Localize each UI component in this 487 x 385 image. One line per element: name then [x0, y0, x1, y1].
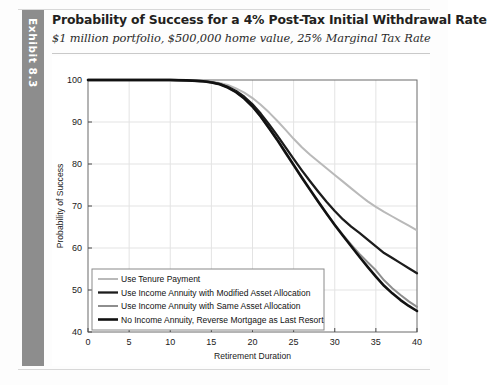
- exhibit-subtitle: $1 million portfolio, $500,000 home valu…: [52, 31, 431, 45]
- y-tick-label: 90: [72, 117, 82, 127]
- y-axis-title: Probability of Success: [55, 164, 65, 249]
- y-tick-label: 50: [72, 285, 82, 295]
- x-tick-label: 35: [371, 337, 381, 347]
- legend-label: Use Income Annuity with Same Asset Alloc…: [121, 301, 301, 311]
- x-tick-label: 15: [206, 337, 216, 347]
- exhibit-title: Probability of Success for a 4% Post-Tax…: [52, 12, 487, 27]
- x-tick-label: 40: [412, 337, 422, 347]
- legend-label: Use Tenure Payment: [121, 274, 201, 284]
- x-tick-label: 0: [85, 337, 90, 347]
- exhibit-number-tab: Exhibit 8.3: [22, 10, 44, 366]
- x-tick-label: 25: [289, 337, 299, 347]
- legend-label: Use Income Annuity with Modified Asset A…: [121, 288, 311, 298]
- y-tick-label: 80: [72, 159, 82, 169]
- axis-titles: Retirement DurationProbability of Succes…: [55, 164, 291, 361]
- x-axis-title: Retirement Duration: [214, 351, 291, 361]
- line-chart-svg: 4050607080901000510152025303540 Retireme…: [52, 56, 430, 366]
- x-tick-label: 5: [127, 337, 132, 347]
- header-divider: [52, 53, 430, 54]
- top-divider: [18, 9, 430, 10]
- x-tick-label: 20: [247, 337, 257, 347]
- x-tick-label: 30: [330, 337, 340, 347]
- bottom-divider: [18, 369, 430, 370]
- legend-label: No Income Annuity, Reverse Mortgage as L…: [121, 315, 324, 325]
- y-tick-label: 60: [72, 243, 82, 253]
- chart-legend: Use Tenure PaymentUse Income Annuity wit…: [92, 269, 324, 330]
- chart-plot-area: 4050607080901000510152025303540 Retireme…: [52, 56, 430, 366]
- y-tick-label: 70: [72, 201, 82, 211]
- exhibit-header: Probability of Success for a 4% Post-Tax…: [52, 11, 430, 53]
- x-tick-label: 10: [165, 337, 175, 347]
- y-tick-label: 100: [67, 75, 82, 85]
- y-tick-label: 40: [72, 327, 82, 337]
- exhibit-number-label: Exhibit 8.3: [27, 18, 39, 88]
